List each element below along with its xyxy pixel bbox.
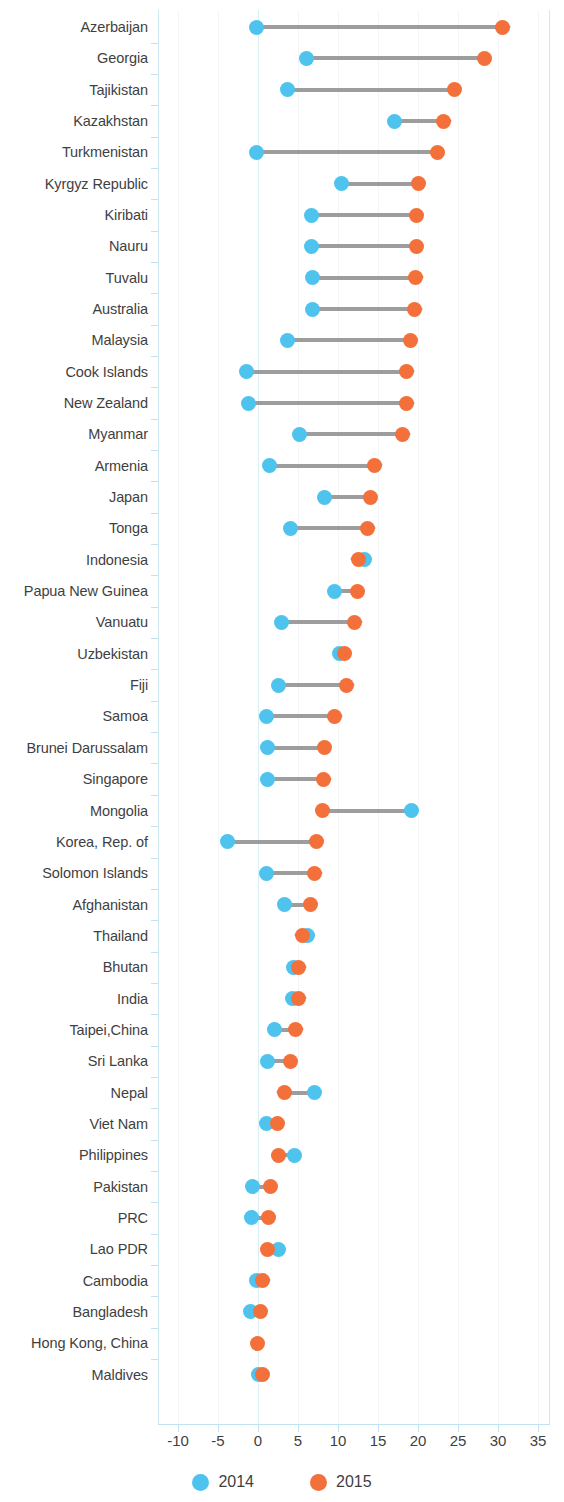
category-label: Malaysia bbox=[0, 333, 158, 348]
x-tick-label-35: 35 bbox=[530, 1432, 547, 1449]
category-label: Cook Islands bbox=[0, 365, 158, 380]
change-connector bbox=[269, 464, 371, 468]
gridline-30 bbox=[498, 10, 499, 1425]
x-tickmark-30 bbox=[498, 1425, 499, 1432]
y-tickmark bbox=[151, 387, 158, 388]
change-connector bbox=[323, 809, 408, 813]
category-label: Kiribati bbox=[0, 208, 158, 223]
gridline-25 bbox=[458, 10, 459, 1425]
data-point-2015 bbox=[255, 1367, 270, 1382]
gridline--5 bbox=[218, 10, 219, 1425]
data-point-2015 bbox=[363, 490, 378, 505]
category-label: Japan bbox=[0, 490, 158, 505]
y-tickmark bbox=[151, 889, 158, 890]
y-tickmark bbox=[151, 419, 158, 420]
gridline-35 bbox=[538, 10, 539, 1425]
y-tickmark bbox=[151, 1046, 158, 1047]
data-point-2014 bbox=[280, 333, 295, 348]
data-point-2015 bbox=[277, 1085, 292, 1100]
category-label: Nepal bbox=[0, 1086, 158, 1101]
category-label: Lao PDR bbox=[0, 1242, 158, 1257]
y-tickmark bbox=[151, 1296, 158, 1297]
legend-item: 2015 bbox=[310, 1473, 372, 1491]
data-point-2015 bbox=[295, 928, 310, 943]
x-tick-label-15: 15 bbox=[370, 1432, 387, 1449]
data-point-2014 bbox=[387, 114, 402, 129]
data-point-2014 bbox=[317, 490, 332, 505]
y-tickmark bbox=[151, 168, 158, 169]
change-connector bbox=[312, 307, 410, 311]
category-label: Turkmenistan bbox=[0, 145, 158, 160]
y-tickmark bbox=[151, 795, 158, 796]
y-tickmark bbox=[151, 325, 158, 326]
x-tickmark--10 bbox=[178, 1425, 179, 1432]
data-point-2014 bbox=[259, 866, 274, 881]
y-tickmark bbox=[151, 607, 158, 608]
data-point-2014 bbox=[249, 145, 264, 160]
category-label: New Zealand bbox=[0, 396, 158, 411]
data-point-2014 bbox=[305, 302, 320, 317]
data-point-2015 bbox=[339, 678, 354, 693]
y-tickmark bbox=[151, 293, 158, 294]
y-tickmark bbox=[151, 231, 158, 232]
data-point-2014 bbox=[260, 1054, 275, 1069]
category-label: Tonga bbox=[0, 521, 158, 536]
change-connector bbox=[288, 88, 450, 92]
data-point-2014 bbox=[271, 678, 286, 693]
change-connector bbox=[268, 777, 320, 781]
plot-left-border bbox=[158, 10, 159, 1425]
category-label: Tajikistan bbox=[0, 83, 158, 98]
category-label: Cambodia bbox=[0, 1274, 158, 1289]
change-connector bbox=[312, 244, 413, 248]
y-tickmark bbox=[151, 262, 158, 263]
y-tickmark bbox=[151, 1359, 158, 1360]
change-connector bbox=[300, 432, 399, 436]
y-tickmark bbox=[151, 1014, 158, 1015]
x-tick-label-10: 10 bbox=[330, 1432, 347, 1449]
category-label: Uzbekistan bbox=[0, 647, 158, 662]
data-point-2014 bbox=[260, 740, 275, 755]
data-point-2015 bbox=[260, 1242, 275, 1257]
data-point-2014 bbox=[249, 20, 264, 35]
y-tickmark bbox=[151, 669, 158, 670]
category-label: Korea, Rep. of bbox=[0, 835, 158, 850]
data-point-2015 bbox=[307, 866, 322, 881]
x-tick-label--10: -10 bbox=[167, 1432, 189, 1449]
x-tickmark-20 bbox=[418, 1425, 419, 1432]
category-label: Nauru bbox=[0, 239, 158, 254]
data-point-2014 bbox=[404, 803, 419, 818]
y-tickmark bbox=[151, 1108, 158, 1109]
y-tickmark bbox=[151, 983, 158, 984]
y-tickmark bbox=[151, 74, 158, 75]
category-label: Kyrgyz Republic bbox=[0, 177, 158, 192]
data-point-2015 bbox=[250, 1336, 265, 1351]
y-tickmark bbox=[151, 43, 158, 44]
chart-legend: 20142015 bbox=[0, 1466, 564, 1498]
y-tickmark bbox=[151, 356, 158, 357]
y-tickmark bbox=[151, 638, 158, 639]
change-connector bbox=[291, 526, 364, 530]
category-label: Bangladesh bbox=[0, 1305, 158, 1320]
y-tickmark bbox=[151, 826, 158, 827]
category-label-column: AzerbaijanGeorgiaTajikistanKazakhstanTur… bbox=[0, 0, 158, 1425]
data-point-2015 bbox=[409, 208, 424, 223]
y-tickmark bbox=[151, 1265, 158, 1266]
data-point-2014 bbox=[267, 1022, 282, 1037]
y-tickmark bbox=[151, 858, 158, 859]
y-tickmark bbox=[151, 544, 158, 545]
change-connector bbox=[266, 714, 331, 718]
category-label: Singapore bbox=[0, 772, 158, 787]
data-point-2014 bbox=[299, 51, 314, 66]
x-axis-tick-labels: -10-505101520253035 bbox=[158, 1432, 550, 1454]
data-point-2015 bbox=[447, 82, 462, 97]
data-point-2014 bbox=[277, 897, 292, 912]
y-tickmark bbox=[151, 481, 158, 482]
gridline-15 bbox=[378, 10, 379, 1425]
data-point-2015 bbox=[409, 239, 424, 254]
gridline--10 bbox=[178, 10, 179, 1425]
x-tick-label-5: 5 bbox=[294, 1432, 302, 1449]
category-label: Philippines bbox=[0, 1148, 158, 1163]
category-label: Afghanistan bbox=[0, 898, 158, 913]
y-tickmark bbox=[151, 1202, 158, 1203]
change-connector bbox=[247, 370, 403, 374]
